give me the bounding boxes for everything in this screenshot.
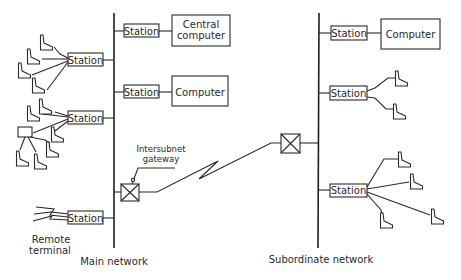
main-station-remote: Station Remote terminal <box>29 207 114 256</box>
station-label: Station <box>124 26 160 37</box>
gateway-pointer <box>132 168 175 184</box>
cluster-controller-box <box>18 127 32 137</box>
central-computer-label-line2: computer <box>177 30 226 41</box>
sub-station-terminals-4: Station <box>318 152 444 228</box>
main-station-computer: Station Computer <box>114 76 228 106</box>
station-label: Station <box>331 88 367 99</box>
sub-station-terminals-2: Station <box>319 71 408 119</box>
terminal-icon <box>28 106 40 121</box>
main-station-central: Station Central computer <box>114 15 230 46</box>
subordinate-network-label: Subordinate network <box>269 254 374 265</box>
sub-station-computer: Station Computer <box>319 19 440 49</box>
network-diagram: Station Central computer Station Compute… <box>0 0 461 280</box>
remote-terminal-label-line2: terminal <box>29 245 71 256</box>
terminal-icon <box>40 99 52 114</box>
terminal-icon <box>28 49 40 64</box>
main-station-cluster: Station <box>17 99 115 169</box>
remote-terminal-label-line1: Remote <box>32 234 71 245</box>
gateway-label-line1: Intersubnet <box>136 144 186 154</box>
terminal-icon <box>396 71 408 86</box>
terminal-icon <box>394 104 406 119</box>
terminal-icon <box>432 209 444 224</box>
station-label: Station <box>331 185 367 196</box>
terminal-icon <box>35 154 47 169</box>
subordinate-network-bus <box>318 13 319 248</box>
main-station-terminals: Station <box>19 35 115 93</box>
terminal-icon <box>19 63 31 78</box>
station-label: Station <box>331 28 367 39</box>
central-computer-label-line1: Central <box>183 19 219 30</box>
terminal-icon <box>33 78 45 93</box>
station-label: Station <box>68 113 104 124</box>
terminal-icon <box>381 213 393 228</box>
gateway-label-line2: gateway <box>143 154 179 164</box>
intersubnet-gateway: Intersubnet gateway <box>114 134 319 201</box>
terminal-icon <box>411 174 423 189</box>
station-label: Station <box>68 55 104 66</box>
terminal-icon <box>17 151 29 166</box>
computer-label: Computer <box>175 87 226 98</box>
sub-computer-label: Computer <box>386 29 437 40</box>
main-network-label: Main network <box>80 256 148 267</box>
station-label: Station <box>68 213 104 224</box>
terminal-icon <box>399 152 411 167</box>
terminal-icon <box>47 142 59 157</box>
terminal-icon <box>41 35 53 50</box>
station-label: Station <box>124 87 160 98</box>
